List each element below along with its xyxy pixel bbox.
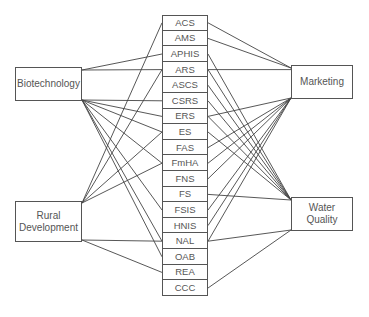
connection-line xyxy=(208,23,291,68)
connection-line xyxy=(82,100,162,163)
agency-column: ACSAMSAPHISARSASCSCSRSERSESFASFmHAFNSFSF… xyxy=(162,15,208,296)
node-label: Biotechnology xyxy=(17,78,80,90)
node-label: Water Quality xyxy=(292,202,352,226)
agency-ams: AMS xyxy=(162,31,208,47)
connection-line xyxy=(82,240,162,272)
agency-fns: FNS xyxy=(162,171,208,187)
agency-ascs: ASCS xyxy=(162,77,208,93)
connection-line xyxy=(82,132,162,203)
connection-line xyxy=(208,98,291,148)
agency-ers: ERS xyxy=(162,109,208,125)
connection-line xyxy=(208,54,291,200)
agency-aphis: APHIS xyxy=(162,46,208,62)
agency-fmha: FmHA xyxy=(162,155,208,171)
connection-line xyxy=(208,98,291,241)
agency-oab: OAB xyxy=(162,249,208,265)
connection-line xyxy=(208,101,291,200)
agency-nal: NAL xyxy=(162,233,208,249)
agency-fas: FAS xyxy=(162,140,208,156)
connection-line xyxy=(82,100,162,101)
agency-acs: ACS xyxy=(162,15,208,31)
connection-line xyxy=(208,70,291,200)
agency-rea: REA xyxy=(162,265,208,281)
connection-line xyxy=(82,54,162,70)
agency-es: ES xyxy=(162,124,208,140)
agency-ars: ARS xyxy=(162,62,208,78)
connection-line xyxy=(82,100,162,257)
agency-csrs: CSRS xyxy=(162,93,208,109)
node-biotechnology: Biotechnology xyxy=(15,67,82,101)
connection-line xyxy=(208,98,291,226)
connection-line xyxy=(82,100,162,210)
connection-line xyxy=(208,116,291,200)
connection-line xyxy=(208,194,291,200)
connection-line xyxy=(82,240,162,241)
connection-line xyxy=(208,38,291,68)
agency-fs: FS xyxy=(162,187,208,203)
node-water-quality: Water Quality xyxy=(291,197,353,231)
connection-line xyxy=(208,230,291,288)
connection-line xyxy=(208,230,291,241)
connection-line xyxy=(208,98,291,116)
node-label: Marketing xyxy=(300,76,344,88)
agency-ccc: CCC xyxy=(162,280,208,296)
connection-line xyxy=(208,98,291,210)
connection-line xyxy=(82,100,162,241)
agency-hnis: HNIS xyxy=(162,218,208,234)
agency-fsis: FSIS xyxy=(162,202,208,218)
node-rural-development: Rural Development xyxy=(15,201,82,242)
node-marketing: Marketing xyxy=(291,65,353,99)
node-label: Rural Development xyxy=(19,210,78,234)
connection-line xyxy=(208,98,291,179)
connection-line xyxy=(82,23,162,203)
